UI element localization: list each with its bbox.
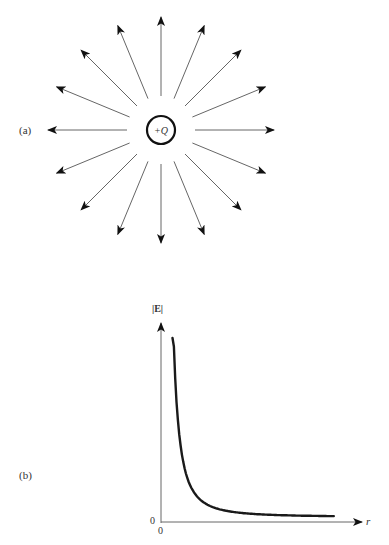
- field-line-arrow: [192, 143, 265, 173]
- field-line-arrow: [174, 161, 204, 234]
- field-line-arrow: [174, 26, 204, 99]
- field-line-arrow: [57, 87, 130, 117]
- field-line-arrow: [81, 154, 137, 210]
- field-line-arrow: [185, 154, 241, 210]
- field-line-arrow: [185, 50, 241, 106]
- field-line-arrow: [118, 161, 148, 234]
- field-line-arrow: [192, 87, 265, 117]
- field-magnitude-curve: [173, 338, 334, 516]
- point-charge-circle: [147, 116, 175, 144]
- figure-canvas: [0, 0, 389, 545]
- field-line-arrow: [81, 50, 137, 106]
- field-lines: [48, 17, 274, 243]
- field-line-arrow: [118, 26, 148, 99]
- field-line-arrow: [57, 143, 130, 173]
